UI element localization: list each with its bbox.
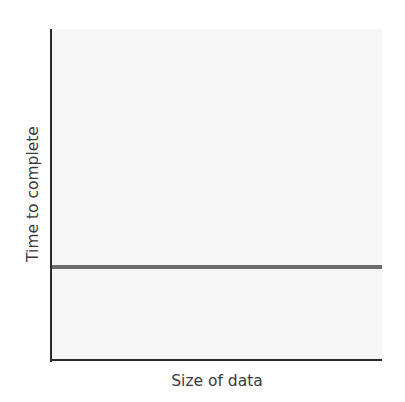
x-axis [50,359,382,361]
chart: Time to complete Size of data [0,0,405,402]
y-axis [50,29,52,362]
y-axis-label: Time to complete [24,126,42,262]
constant-time-line [52,265,382,269]
plot-area [52,29,382,360]
x-axis-label: Size of data [52,372,382,390]
